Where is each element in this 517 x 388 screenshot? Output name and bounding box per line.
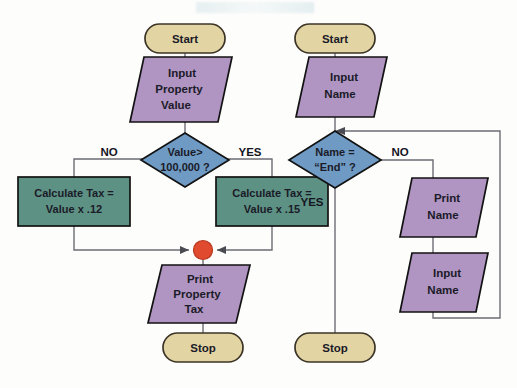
left-decision-line-1: Value> — [167, 146, 202, 158]
flowchart-figure: Start Input Property Value Value> 100,00… — [0, 0, 517, 388]
left-node-start[interactable]: Start — [145, 24, 225, 53]
arrow-into-merge-right — [217, 246, 226, 254]
right-node-input-name-top[interactable]: Input Name — [296, 57, 387, 117]
io-shape — [400, 253, 488, 312]
left-calc15-line-2: Value x .15 — [244, 203, 300, 215]
left-printtax-line-3: Tax — [185, 303, 205, 315]
io-shape — [400, 178, 488, 237]
left-node-print-property-tax[interactable]: Print Property Tax — [148, 265, 250, 323]
right-inputname-loop-line-1: Input — [433, 267, 461, 279]
right-decision-line-2: “End” ? — [314, 161, 356, 173]
left-decision-line-2: 100,000 ? — [160, 161, 210, 173]
right-printname-line-1: Print — [434, 192, 460, 204]
io-shape — [296, 57, 387, 117]
left-branch-label-no: NO — [100, 146, 117, 158]
right-printname-line-2: Name — [427, 209, 458, 221]
left-input-line-3: Value — [161, 99, 191, 111]
connector-dot — [194, 241, 213, 260]
right-branch-label-no: NO — [391, 146, 408, 158]
flowchart-canvas: Start Input Property Value Value> 100,00… — [0, 0, 517, 388]
right-inputname-loop-line-2: Name — [427, 284, 458, 296]
right-node-print-name[interactable]: Print Name — [400, 178, 488, 237]
left-node-input-property-value[interactable]: Input Property Value — [130, 57, 232, 122]
right-inputname-top-line-2: Name — [324, 88, 355, 100]
left-node-stop[interactable]: Stop — [163, 333, 243, 362]
right-start-label: Start — [322, 33, 348, 45]
left-printtax-line-1: Print — [187, 273, 213, 285]
left-branch-label-yes: YES — [238, 146, 261, 158]
left-node-merge-connector — [194, 241, 213, 260]
right-inputname-top-line-1: Input — [330, 71, 358, 83]
left-node-calculate-tax-12[interactable]: Calculate Tax = Value x .12 — [18, 177, 130, 226]
arrow-into-merge-left — [180, 246, 189, 254]
left-stop-label: Stop — [190, 342, 216, 354]
right-node-start[interactable]: Start — [295, 24, 375, 53]
left-calc12-line-2: Value x .12 — [46, 203, 102, 215]
left-input-line-1: Input — [168, 67, 196, 79]
left-calc12-line-1: Calculate Tax = — [34, 187, 114, 199]
process-shape — [18, 177, 130, 226]
conn-no-branch-left — [74, 159, 143, 177]
left-input-line-2: Property — [155, 83, 203, 95]
right-node-input-name-loop[interactable]: Input Name — [400, 253, 488, 312]
right-decision-line-1: Name = — [315, 146, 354, 158]
left-start-label: Start — [172, 33, 198, 45]
conn-no-branch-right — [379, 160, 433, 178]
conn-yes-branch-left — [227, 159, 272, 177]
right-node-stop[interactable]: Stop — [295, 333, 375, 362]
right-stop-label: Stop — [322, 342, 348, 354]
conn-calc12-to-merge — [74, 226, 189, 250]
right-branch-label-yes: YES — [300, 196, 323, 208]
left-printtax-line-2: Property — [173, 288, 221, 300]
